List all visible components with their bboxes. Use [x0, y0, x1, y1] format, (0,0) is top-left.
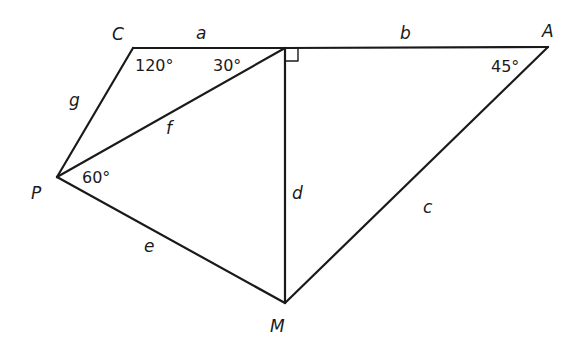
segment-label-a: a: [196, 23, 206, 43]
segment-e: [57, 177, 285, 303]
segment-label-f: f: [166, 118, 175, 138]
vertex-label-C: C: [112, 24, 124, 44]
segment-label-e: e: [144, 236, 154, 256]
segment-label-b: b: [400, 23, 411, 43]
angle-label-P: 60°: [82, 168, 110, 187]
angle-label-T: 30°: [213, 56, 241, 75]
vertex-label-A: A: [541, 21, 554, 41]
segment-b: [285, 47, 548, 48]
vertex-label-M: M: [270, 316, 285, 336]
angle-label-C: 120°: [135, 56, 174, 75]
angle-label-A: 45°: [491, 57, 519, 76]
segment-label-g: g: [69, 90, 80, 110]
geometry-diagram: C A P M a b c d e f g 120° 30° 45° 60°: [0, 0, 585, 351]
vertex-label-P: P: [31, 183, 42, 203]
segment-label-c: c: [423, 197, 433, 217]
segment-g: [57, 48, 133, 177]
right-angle-marker: [285, 48, 298, 61]
segment-c: [285, 47, 548, 303]
segment-label-d: d: [292, 183, 303, 203]
